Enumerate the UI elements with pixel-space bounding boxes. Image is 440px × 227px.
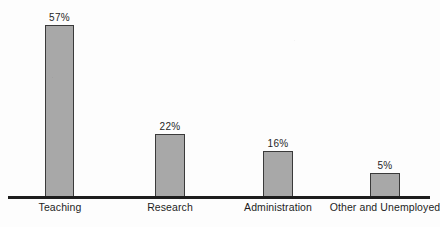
bar <box>45 25 74 198</box>
category-label: Research <box>147 201 193 213</box>
bar <box>263 151 293 198</box>
category-label: Other and Unemployed <box>330 201 440 213</box>
bar-value-label: 5% <box>377 160 392 171</box>
bar-value-label: 16% <box>268 138 289 149</box>
bar-group: 5% <box>370 173 400 198</box>
bar-group: 22% <box>155 134 185 198</box>
x-axis-line <box>8 196 430 199</box>
category-label: Administration <box>244 201 312 213</box>
x-axis-category-labels: Teaching Research Administration Other a… <box>0 201 439 221</box>
category-label: Teaching <box>39 201 82 213</box>
bar-value-label: 22% <box>160 121 181 132</box>
bar <box>370 173 400 198</box>
plot-area: 57% 22% 16% 5% <box>0 0 439 198</box>
bar-group: 57% <box>45 25 74 198</box>
bar-value-label: 57% <box>49 12 70 23</box>
bar <box>155 134 185 198</box>
bar-group: 16% <box>263 151 293 198</box>
